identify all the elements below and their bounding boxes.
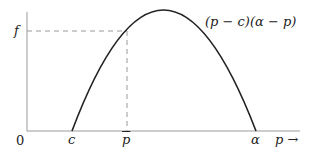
curve-label: (p − c)(α − p): [205, 15, 296, 28]
y-axis-label-f: f: [14, 24, 19, 37]
x-tick-pbar: p: [122, 133, 130, 146]
x-tick-alpha: α: [251, 133, 260, 146]
x-axis-label-p: p →: [275, 133, 298, 146]
origin-label: 0: [16, 134, 24, 147]
x-tick-c: c: [68, 133, 75, 146]
